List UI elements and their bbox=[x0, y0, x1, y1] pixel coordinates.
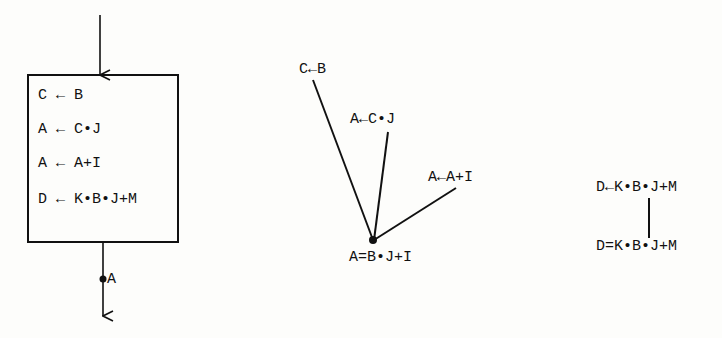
stmt-3: A ← A+I bbox=[38, 156, 101, 171]
right-top-label: D←K•B•J+M bbox=[596, 180, 677, 195]
branch-label-2: A←C•J bbox=[350, 112, 395, 127]
root-label: A=B•J+I bbox=[349, 250, 412, 265]
branch-label-1: C←B bbox=[299, 62, 326, 77]
edge-a-cj bbox=[374, 132, 388, 240]
edge-a-ai bbox=[374, 188, 456, 240]
stmt-2: A ← C•J bbox=[38, 122, 101, 137]
right-bottom-label: D=K•B•J+M bbox=[596, 239, 677, 254]
stmt-1: C ← B bbox=[38, 88, 83, 103]
root-node-dot bbox=[369, 236, 377, 244]
stmt-4: D ← K•B•J+M bbox=[38, 192, 137, 207]
branch-label-3: A←A+I bbox=[428, 170, 473, 185]
edge-c-b bbox=[313, 80, 373, 240]
exit-label: A bbox=[107, 272, 116, 287]
exit-node-dot bbox=[100, 276, 107, 283]
